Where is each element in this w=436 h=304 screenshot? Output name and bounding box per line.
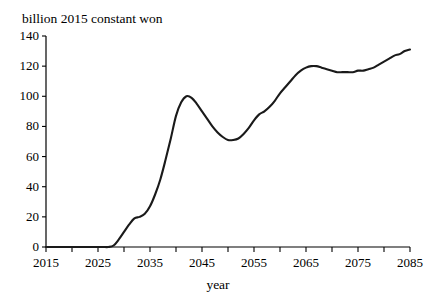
- x-tick-label: 2025: [73, 256, 123, 269]
- series-line: [46, 50, 410, 248]
- y-tick-label: 40: [26, 180, 39, 193]
- y-tick-label: 0: [33, 240, 40, 253]
- x-axis-title: year: [0, 278, 436, 292]
- y-tick-label: 120: [20, 59, 40, 72]
- y-tick-label: 20: [26, 210, 39, 223]
- x-tick-label: 2055: [229, 256, 279, 269]
- y-tick-label: 140: [20, 29, 40, 42]
- data-series: [46, 50, 410, 248]
- x-tick-label: 2075: [333, 256, 383, 269]
- y-tick-label: 80: [26, 119, 39, 132]
- x-tick-label: 2035: [125, 256, 175, 269]
- y-tick-label: 100: [20, 89, 40, 102]
- x-tick-label: 2065: [281, 256, 331, 269]
- y-tick-label: 60: [26, 150, 39, 163]
- x-tick-label: 2015: [21, 256, 71, 269]
- axis-ticks: [42, 36, 410, 252]
- x-tick-label: 2085: [385, 256, 435, 269]
- x-tick-label: 2045: [177, 256, 227, 269]
- line-chart: billion 2015 constant won 02040608010012…: [0, 0, 436, 304]
- axes: [46, 36, 410, 247]
